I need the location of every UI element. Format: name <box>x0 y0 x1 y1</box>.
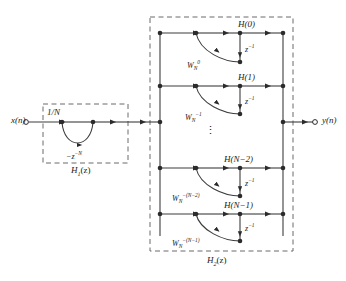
branch-delay-label-2: z−1 <box>245 178 255 188</box>
block-label-h2: H2(z) <box>207 256 227 267</box>
input-label: x(n) <box>11 116 26 125</box>
comb-gain-label: 1/N <box>47 108 60 117</box>
branch-gain-label-2: H(N−2) <box>224 155 253 164</box>
branch-coef-label-3: WN−(N−1) <box>172 238 200 250</box>
comb-feedback-label: −z−N <box>66 151 82 161</box>
branch-delay-label-3: z−1 <box>245 223 255 233</box>
branch-nodes-1 <box>158 84 286 117</box>
comb-feedback-arc <box>62 122 93 145</box>
block-boundary-h2 <box>150 17 293 251</box>
branch-nodes-0 <box>158 31 286 65</box>
output-terminal <box>313 120 318 125</box>
branch-gain-label-1: H(1) <box>238 73 255 82</box>
branch-delay-label-0: z−1 <box>245 44 255 54</box>
branch-coef-label-2: WN−(N−2) <box>172 193 200 205</box>
branch-coef-label-1: WN−1 <box>185 112 202 124</box>
branch-row-2 <box>160 168 283 196</box>
output-label: y(n) <box>322 116 337 125</box>
branch-gain-label-0: H(0) <box>238 20 255 29</box>
branch-row-3 <box>160 214 283 241</box>
branch-row-1 <box>160 86 283 114</box>
diagram-canvas: x(n) y(n) 1/N −z−N H1(z) H(0) z−1 WN0 H(… <box>0 0 346 281</box>
branch-delay-label-1: z−1 <box>245 96 255 106</box>
branch-coef-label-0: WN0 <box>187 60 200 72</box>
rail-junction-nodes <box>158 120 286 125</box>
block-label-h1: H1(z) <box>71 166 91 177</box>
branch-row-0 <box>160 33 283 62</box>
branch-ellipsis: ⋮ <box>205 129 215 132</box>
branch-gain-label-3: H(N−1) <box>224 201 253 210</box>
